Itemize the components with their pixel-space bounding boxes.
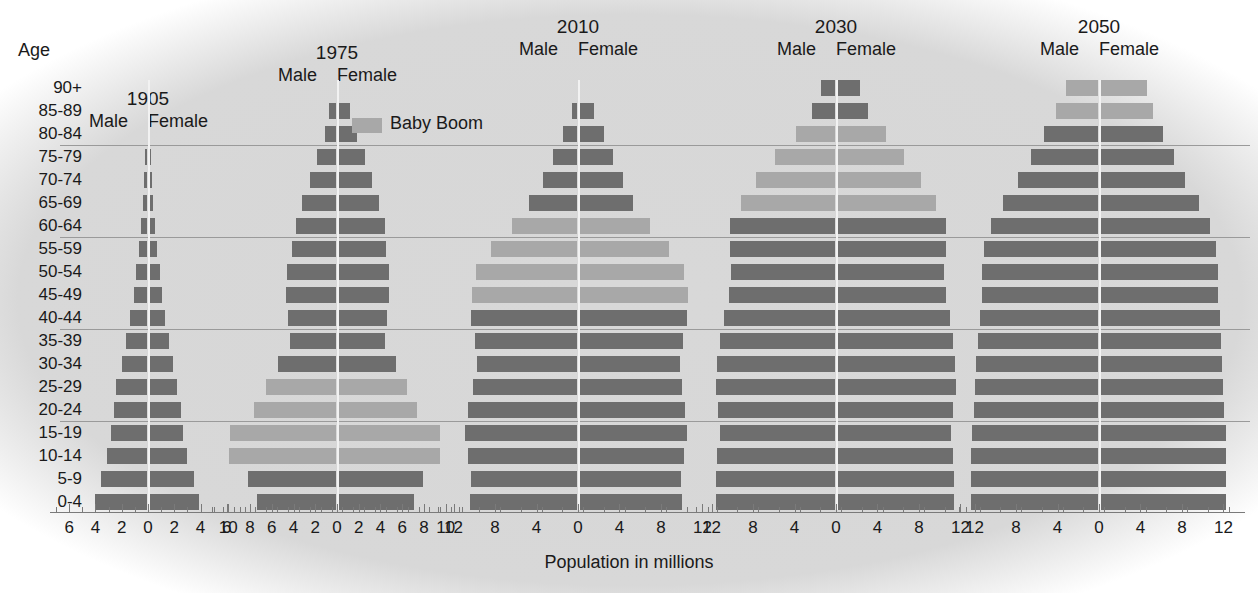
bar-1905-male-10-14 [107, 448, 147, 464]
bar-1905-female-15-19 [149, 425, 183, 441]
x-tick [924, 507, 925, 512]
x-tick [419, 507, 420, 512]
baby-boom-legend-label: Baby Boom [390, 113, 483, 134]
bar-1905-male-35-39 [126, 333, 147, 349]
bar-2010-male-40-44 [471, 310, 577, 326]
bar-1975-female-65-69 [338, 195, 379, 211]
x-tick [841, 507, 842, 512]
bar-2010-male-30-34 [477, 356, 577, 372]
bar-2050-female-20-24 [1100, 402, 1224, 418]
x-tick [562, 507, 563, 512]
x-tick [288, 507, 289, 512]
bar-2050-female-70-74 [1100, 172, 1185, 188]
bar-1975-male-50-54 [287, 264, 336, 280]
x-tick [1146, 507, 1147, 512]
bar-2030-male-60-64 [730, 218, 835, 234]
age-label-30-34: 30-34 [0, 354, 82, 374]
age-label-10-14: 10-14 [0, 446, 82, 466]
x-tick-major [446, 504, 447, 512]
bar-1905-female-25-29 [149, 379, 177, 395]
bar-2030-female-75-79 [837, 149, 904, 165]
x-tick-major [795, 504, 796, 512]
bar-2010-female-5-9 [579, 471, 681, 487]
bar-2010-male-25-29 [473, 379, 577, 395]
bar-2030-male-85-89 [812, 103, 835, 119]
bar-2030-male-20-24 [718, 402, 835, 418]
x-tick-major [1016, 504, 1017, 512]
bar-1975-male-65-69 [302, 195, 336, 211]
panel-year-2010: 2010 [478, 16, 678, 38]
bar-2030-female-10-14 [837, 448, 953, 464]
x-tick [1187, 507, 1188, 512]
female-header: Female [138, 111, 244, 132]
bar-2010-female-30-34 [579, 356, 680, 372]
x-tick [945, 507, 946, 512]
x-tick-major [975, 504, 976, 512]
bar-2050-male-10-14 [971, 448, 1098, 464]
bar-2010-female-85-89 [579, 103, 594, 119]
x-tick-major [174, 504, 175, 512]
x-tick [1021, 507, 1022, 512]
x-tick-label: 12 [955, 518, 995, 538]
bar-2010-male-20-24 [468, 402, 577, 418]
x-tick-major [1182, 504, 1183, 512]
bar-2010-female-70-74 [579, 172, 623, 188]
x-axis-line-2010 [432, 512, 724, 513]
bar-2050-female-65-69 [1100, 195, 1199, 211]
bar-2010-male-50-54 [476, 264, 577, 280]
panel-sex-headers-2030: MaleFemale [726, 39, 946, 60]
x-axis-line-1975 [206, 512, 468, 513]
x-tick [212, 507, 213, 512]
bar-1975-male-85-89 [329, 103, 336, 119]
bar-2010-male-55-59 [491, 241, 577, 257]
bar-2050-male-45-49 [982, 287, 1098, 303]
bar-2050-female-80-84 [1100, 126, 1163, 142]
male-header: Male [1003, 39, 1089, 60]
x-tick [666, 507, 667, 512]
x-tick [625, 507, 626, 512]
age-label-45-49: 45-49 [0, 285, 82, 305]
separator-rule [60, 329, 1250, 330]
bar-2010-female-20-24 [579, 402, 685, 418]
bar-1975-male-10-14 [229, 448, 336, 464]
bar-2030-male-40-44 [724, 310, 835, 326]
x-tick-major [294, 504, 295, 512]
bar-2030-female-65-69 [837, 195, 936, 211]
bar-2010-male-10-14 [468, 448, 577, 464]
x-tick-major [578, 504, 579, 512]
x-tick [375, 507, 376, 512]
bar-1975-male-40-44 [288, 310, 336, 326]
male-header: Male [52, 111, 138, 132]
x-tick [737, 507, 738, 512]
x-tick-major [661, 504, 662, 512]
x-tick [397, 507, 398, 512]
x-tick [56, 507, 57, 512]
bar-2030-male-45-49 [729, 287, 835, 303]
bar-2050-male-25-29 [975, 379, 1098, 395]
bar-2050-male-80-84 [1044, 126, 1098, 142]
x-tick-label: 8 [475, 518, 515, 538]
bar-2010-male-75-79 [553, 149, 577, 165]
bar-1905-female-55-59 [149, 241, 157, 257]
x-tick-major [122, 504, 123, 512]
x-tick [521, 507, 522, 512]
x-tick-major [537, 504, 538, 512]
bar-1975-female-10-14 [338, 448, 440, 464]
x-tick-label: 0 [816, 518, 856, 538]
bar-2050-male-0-4 [971, 494, 1098, 510]
bar-1975-male-60-64 [296, 218, 336, 234]
bar-2010-male-0-4 [470, 494, 577, 510]
bar-1975-female-50-54 [338, 264, 389, 280]
bar-2050-male-30-34 [976, 356, 1098, 372]
bar-2030-female-0-4 [837, 494, 954, 510]
bar-2030-female-50-54 [837, 264, 944, 280]
bar-2050-female-35-39 [1100, 333, 1221, 349]
x-tick-major [315, 504, 316, 512]
x-tick-label: 0 [1079, 518, 1119, 538]
age-label-50-54: 50-54 [0, 262, 82, 282]
bar-2050-male-65-69 [1003, 195, 1098, 211]
bar-1975-female-85-89 [338, 103, 350, 119]
bar-2030-male-90plus [821, 80, 835, 96]
x-tick [862, 507, 863, 512]
panel-year-2030: 2030 [736, 16, 936, 38]
